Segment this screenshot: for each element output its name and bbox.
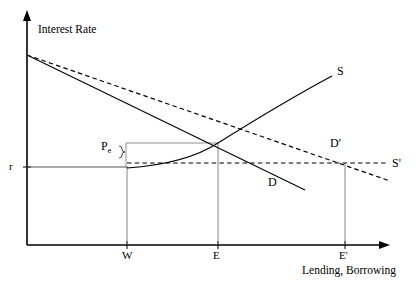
axes-group [23, 10, 390, 249]
x-axis-title: Lending, Borrowing [302, 265, 396, 277]
drop-guides-group [127, 143, 345, 245]
premium-label: Pe [101, 140, 111, 155]
curve-label-s-prime: S' [392, 157, 401, 169]
y-axis-arrow-icon [23, 10, 31, 21]
x-tick-label-e-prime: E' [339, 250, 348, 261]
y-axis-title: Interest Rate [38, 24, 96, 36]
x-tick-label-w: W [122, 250, 132, 261]
tick-marks-group [23, 167, 345, 249]
premium-label-base: P [101, 139, 108, 153]
loanable-funds-chart: Interest Rate Lending, Borrowing r W E E… [0, 0, 419, 288]
premium-label-subscript: e [108, 146, 112, 155]
curve-label-d-prime: D' [330, 137, 341, 149]
y-tick-label-r: r [9, 161, 13, 172]
demand-curve-d-prime [27, 55, 390, 181]
curve-label-s: S [337, 65, 344, 77]
x-axis-arrow-icon [379, 241, 390, 249]
supply-curve-s [127, 76, 332, 168]
chart-canvas [0, 0, 419, 288]
x-tick-label-e: E [213, 250, 220, 261]
curve-label-d: D [268, 176, 277, 188]
demand-curve-d [27, 55, 305, 190]
